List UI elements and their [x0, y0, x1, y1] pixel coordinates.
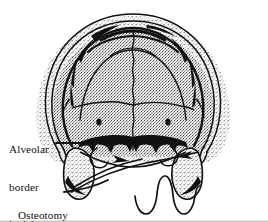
incisive-foramen-left: [96, 118, 101, 125]
label-osteotomy: Osteotomy: [18, 184, 68, 222]
incisive-foramen-right: [165, 118, 170, 125]
anatomical-figure: Alveolar border incision Osteotomy: [0, 0, 268, 222]
label-alveolar-line-1: Alveolar: [9, 143, 49, 156]
label-osteotomy-line-1: Osteotomy: [18, 209, 68, 222]
